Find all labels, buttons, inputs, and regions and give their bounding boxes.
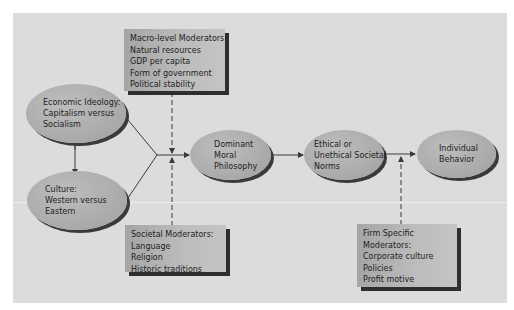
societal-item: Historic traditions — [131, 264, 220, 276]
dominant-moral-philosophy-node: Dominant Moral Philosophy — [190, 130, 271, 180]
firm-specific-moderators-box: Firm Specific Moderators: Corporate cult… — [357, 224, 457, 287]
societal-item: Language — [131, 241, 220, 253]
macro-item: Natural resources — [130, 45, 219, 57]
culture-node: Culture: Western versus Eastern — [27, 171, 127, 230]
node-text: Behavior — [439, 154, 496, 165]
node-text: Individual — [439, 143, 496, 154]
node-text: Philosophy — [214, 161, 271, 172]
node-text: Culture: — [45, 184, 127, 195]
node-text: Western versus — [45, 195, 127, 206]
node-text: Economic Ideology: — [43, 97, 126, 108]
societal-title: Societal Moderators: — [131, 229, 220, 241]
economic-ideology-node: Economic Ideology: Capitalism versus Soc… — [26, 84, 126, 143]
node-text: Norms — [314, 161, 384, 172]
node-text: Moral — [214, 150, 271, 161]
macro-title: Macro-level Moderators: — [130, 33, 219, 45]
individual-behavior-node: Individual Behavior — [417, 130, 496, 178]
node-text: Dominant — [214, 139, 271, 150]
societal-norms-node: Ethical or Unethical Societal Norms — [304, 130, 384, 180]
node-text: Eastern — [45, 206, 127, 217]
culture-converge-line — [128, 155, 157, 198]
macro-item: Form of government — [130, 68, 219, 80]
ideology-converge-line — [128, 120, 157, 155]
societal-moderators-box: Societal Moderators: Language Religion H… — [125, 225, 226, 272]
node-text: Unethical Societal — [314, 150, 384, 161]
node-text: Capitalism versus — [43, 108, 126, 119]
firm-item: Policies — [363, 263, 451, 275]
firm-item: Profit motive — [363, 274, 451, 286]
macro-item: Political stability — [130, 79, 219, 91]
node-text: Socialism — [43, 119, 126, 130]
firm-title: Firm Specific — [363, 228, 451, 240]
node-text: Ethical or — [314, 139, 384, 150]
societal-item: Religion — [131, 252, 220, 264]
macro-level-moderators-box: Macro-level Moderators: Natural resource… — [124, 29, 225, 91]
firm-title: Moderators: — [363, 240, 451, 252]
macro-item: GDP per capita — [130, 56, 219, 68]
firm-item: Corporate culture — [363, 251, 451, 263]
